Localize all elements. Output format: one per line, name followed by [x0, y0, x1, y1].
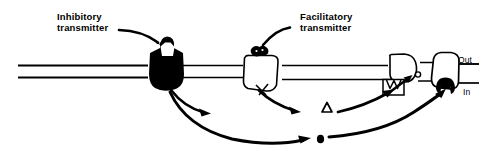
label-in: In	[463, 87, 470, 97]
label-facilitatory-line1: Facilitatory	[300, 11, 352, 22]
label-inhibitory-line1: Inhibitory	[57, 11, 102, 22]
label-inhibitory-transmitter: Inhibitorytransmitter	[57, 11, 108, 33]
label-inhibitory-line2: transmitter	[57, 22, 108, 33]
label-out: Out	[458, 55, 472, 65]
output-terminal	[431, 53, 459, 95]
arrow-inhibitory-to-dot	[170, 92, 311, 144]
label-facilitatory-transmitter: Facilitatorytransmitter	[300, 11, 352, 33]
inhibitory-synapse-terminal	[149, 37, 184, 91]
figure-canvas: Inhibitorytransmitter Facilitatorytransm…	[0, 0, 483, 151]
pointer-facilitatory-transmitter	[261, 28, 290, 48]
facilitatory-synapse-terminal	[243, 46, 278, 95]
triangle-symbol	[322, 103, 332, 113]
presynaptic-terminal	[383, 54, 421, 95]
label-facilitatory-line2: transmitter	[300, 22, 351, 33]
dot-symbol	[317, 135, 324, 144]
arrow-triangle-to-terminal	[338, 90, 394, 113]
pointer-inhibitory-transmitter	[119, 30, 161, 45]
